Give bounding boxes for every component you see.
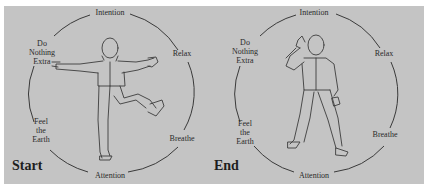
start-label-earth: Earth bbox=[32, 135, 49, 144]
end-circle-arc-top-left bbox=[260, 15, 296, 36]
start-circle-arc-bottom-left bbox=[50, 150, 88, 172]
start-label-feel: Feel bbox=[34, 117, 49, 126]
start-label-breathe: Breathe bbox=[170, 134, 195, 143]
end-figure-drawing bbox=[286, 35, 348, 156]
start-label-nothing: Nothing bbox=[29, 48, 55, 57]
start-title: Start bbox=[12, 158, 43, 173]
start-label-relax: Relax bbox=[173, 49, 192, 58]
start-label-do: Do bbox=[37, 39, 47, 48]
end-label-intention: Intention bbox=[300, 8, 329, 17]
start-diagram: Intention Relax Breathe Attention Do Not… bbox=[12, 8, 195, 180]
end-circle-arc-bottom-left bbox=[254, 146, 294, 172]
start-circle-arc-right bbox=[184, 62, 194, 130]
start-circle-arc-top-left bbox=[54, 15, 90, 36]
end-label-the: the bbox=[240, 128, 250, 137]
start-figure-drawing bbox=[52, 38, 164, 160]
start-circle-arc-bottom-right bbox=[128, 147, 178, 172]
start-circle-arc-top-right bbox=[130, 14, 178, 50]
start-label-the: the bbox=[36, 126, 46, 135]
end-circle-arc-left bbox=[235, 66, 240, 122]
end-label-relax: Relax bbox=[375, 49, 394, 58]
end-label-breathe: Breathe bbox=[373, 130, 398, 139]
end-diagram: Intention Relax Breathe Attention Do Not… bbox=[214, 8, 398, 180]
start-label-attention: Attention bbox=[95, 171, 125, 180]
end-label-attention: Attention bbox=[299, 171, 329, 180]
diagram-canvas: Intention Relax Breathe Attention Do Not… bbox=[0, 0, 424, 184]
start-label-intention: Intention bbox=[96, 8, 125, 17]
end-label-extra: Extra bbox=[236, 56, 254, 65]
end-label-nothing: Nothing bbox=[232, 47, 258, 56]
end-title: End bbox=[214, 158, 239, 173]
end-label-earth: Earth bbox=[236, 137, 253, 146]
start-label-extra: Extra bbox=[33, 57, 51, 66]
end-label-feel: Feel bbox=[238, 119, 253, 128]
start-circle-arc-left bbox=[29, 66, 34, 122]
end-circle-arc-right bbox=[390, 62, 398, 128]
end-circle-arc-top-right bbox=[336, 14, 380, 48]
end-label-do: Do bbox=[240, 38, 250, 47]
